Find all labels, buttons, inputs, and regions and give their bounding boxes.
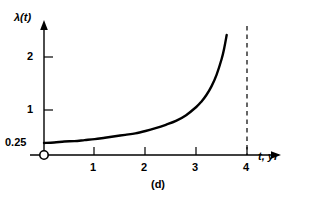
y-tick-label-0-25: 0.25 — [5, 137, 26, 148]
hazard-rate-curve — [44, 35, 227, 143]
y-tick-label-2: 2 — [27, 51, 33, 62]
x-tick-label-2: 2 — [141, 162, 147, 173]
x-axis-title: t, yr — [258, 151, 278, 162]
figure-caption: (d) — [0, 178, 316, 190]
y-tick-label-1: 1 — [27, 104, 33, 115]
plot-area — [0, 0, 316, 202]
x-tick-label-1: 1 — [90, 162, 96, 173]
y-axis-arrowhead — [40, 20, 48, 30]
x-tick-label-3: 3 — [192, 162, 198, 173]
y-axis-ticks — [44, 57, 53, 110]
origin-open-circle-marker — [40, 151, 48, 159]
chart-figure: λ(t) t, yr 2 1 0.25 1 2 3 4 (d) — [0, 0, 316, 202]
x-axis — [30, 151, 281, 159]
y-axis — [40, 20, 48, 155]
x-axis-ticks — [94, 147, 247, 155]
x-tick-label-4: 4 — [243, 162, 249, 173]
y-axis-title: λ(t) — [14, 12, 31, 23]
